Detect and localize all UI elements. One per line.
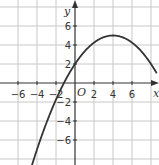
coordinate-plane: −6−4−2246642−2−4−6yxO	[0, 0, 159, 165]
x-axis-label: x	[153, 87, 159, 100]
y-tick-label: 6	[65, 21, 71, 32]
graph: −6−4−2246642−2−4−6yxO	[0, 0, 159, 165]
y-tick-label: −6	[56, 135, 71, 146]
origin-label: O	[77, 86, 86, 99]
y-tick-label: 4	[65, 40, 71, 51]
x-tick-label: −6	[11, 89, 26, 100]
y-tick-label: −4	[56, 116, 71, 127]
y-tick-label: −2	[56, 97, 71, 108]
y-axis-label: y	[63, 5, 71, 18]
x-tick-label: 2	[91, 89, 97, 100]
x-tick-label: 6	[129, 89, 135, 100]
x-tick-label: −4	[30, 89, 45, 100]
y-tick-label: 2	[65, 59, 71, 70]
x-axis-arrow-icon	[151, 80, 159, 86]
y-axis-arrow-icon	[72, 0, 78, 8]
x-tick-label: 4	[110, 89, 116, 100]
